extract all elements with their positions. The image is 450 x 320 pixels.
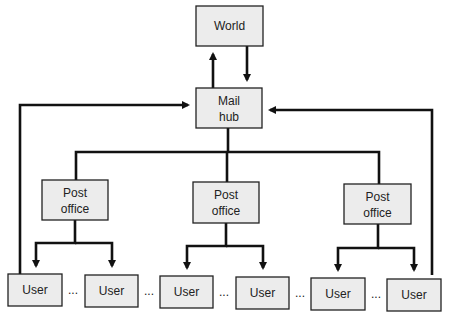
user-label: User (22, 283, 47, 297)
edge-po2-to-user3 (187, 223, 226, 268)
user-label: User (99, 284, 124, 298)
user-node: User (85, 275, 138, 307)
post-office-label-line1: Post (214, 188, 239, 202)
edge-po3-to-user5 (338, 224, 378, 270)
post-office-node: Post office (42, 180, 108, 220)
ellipsis: ... (219, 285, 229, 299)
post-office-label-line2: office (61, 202, 90, 216)
post-office-label-line1: Post (63, 186, 88, 200)
post-office-node: Post office (344, 184, 411, 224)
mail-system-diagram: World Mail hub Post office Post office P… (0, 0, 450, 320)
post-office-label-line2: office (363, 206, 392, 220)
post-office-node: Post office (193, 182, 259, 223)
ellipsis: ... (371, 287, 381, 301)
edge-po3-to-user6 (378, 248, 414, 270)
mail-hub-label-line2: hub (219, 110, 239, 124)
edge-po2-to-user4 (226, 246, 263, 268)
user-node: User (387, 279, 441, 311)
user-node: User (8, 274, 62, 306)
user-node: User (160, 276, 213, 308)
user-label: User (401, 288, 426, 302)
post-office-label-line1: Post (365, 190, 390, 204)
edge-po1-to-user1 (36, 220, 75, 266)
mail-hub-node: Mail hub (196, 88, 262, 128)
edge-po1-to-user2 (75, 243, 112, 266)
ellipsis: ... (144, 284, 154, 298)
ellipsis: ... (68, 283, 78, 297)
user-label: User (174, 285, 199, 299)
edges (20, 46, 432, 275)
user-label: User (250, 286, 275, 300)
mail-hub-label-line1: Mail (218, 94, 240, 108)
user-node: User (236, 277, 289, 309)
world-label: World (214, 19, 245, 33)
user-node: User (311, 278, 365, 310)
ellipsis: ... (295, 286, 305, 300)
user-label: User (325, 287, 350, 301)
world-node: World (196, 6, 263, 46)
post-office-label-line2: office (212, 204, 241, 218)
